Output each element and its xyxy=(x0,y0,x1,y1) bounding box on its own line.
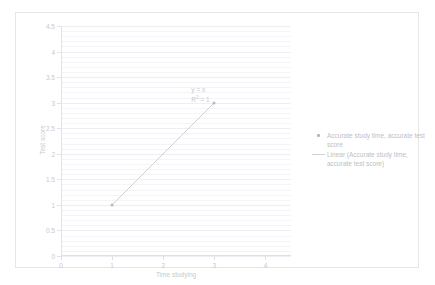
x-axis-tick xyxy=(61,256,62,260)
x-axis-title: Time studying xyxy=(61,271,291,278)
equation-value: = 1 xyxy=(199,96,210,103)
y-axis-tick-label: 0.5 xyxy=(46,227,55,234)
legend-item-trendline[interactable]: Linear (Accurate study time, accurate te… xyxy=(311,150,429,168)
y-axis-tick-label: 2 xyxy=(51,150,55,157)
data-point[interactable] xyxy=(111,203,114,206)
line-marker-icon xyxy=(312,154,325,155)
trendline-equation-label: y = x R2 = 1 xyxy=(191,86,209,104)
dot-marker-icon xyxy=(317,134,320,137)
x-axis-tick-label: 2 xyxy=(161,262,165,269)
trendline xyxy=(61,26,291,256)
y-axis-tick-label: 1 xyxy=(51,201,55,208)
x-axis-tick-label: 3 xyxy=(213,262,217,269)
gridline-major xyxy=(61,256,291,257)
x-axis-tick xyxy=(112,256,113,260)
y-axis-tick-label: 3 xyxy=(51,99,55,106)
plot-area: 00.511.522.533.544.5 01234 y = x R2 = 1 xyxy=(61,26,291,256)
y-axis-tick-label: 0 xyxy=(51,253,55,260)
x-axis-tick-label: 0 xyxy=(59,262,63,269)
x-axis-tick xyxy=(163,256,164,260)
chart-legend: Accurate study time, accurate test score… xyxy=(311,131,429,169)
y-axis-tick-label: 4.5 xyxy=(46,23,55,30)
chart-container: Test score Time studying 00.511.522.533.… xyxy=(15,12,419,268)
x-axis-tick-label: 1 xyxy=(110,262,114,269)
legend-item-label: Linear (Accurate study time, accurate te… xyxy=(327,150,429,168)
x-axis-tick-label: 4 xyxy=(264,262,268,269)
y-axis-tick-label: 2.5 xyxy=(46,125,55,132)
y-axis-tick-label: 1.5 xyxy=(46,176,55,183)
data-point[interactable] xyxy=(213,101,216,104)
y-axis-tick-label: 4 xyxy=(51,48,55,55)
legend-item-scatter[interactable]: Accurate study time, accurate test score xyxy=(311,131,429,149)
equation-line-1: y = x xyxy=(191,86,205,93)
legend-item-label: Accurate study time, accurate test score xyxy=(327,131,429,149)
x-axis-tick xyxy=(214,256,215,260)
y-axis-tick-label: 3.5 xyxy=(46,74,55,81)
equation-line-2: R2 = 1 xyxy=(191,96,209,103)
x-axis-tick xyxy=(265,256,266,260)
